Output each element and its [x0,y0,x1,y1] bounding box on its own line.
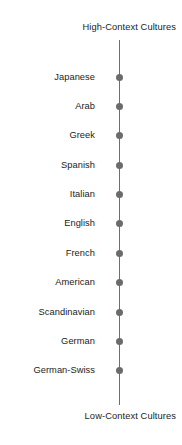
data-point-dot [116,74,123,81]
scale-row: Scandinavian [0,305,182,319]
scale-row: Italian [0,187,182,201]
scale-row: German-Swiss [0,363,182,377]
scale-row: French [0,246,182,260]
data-point-dot [116,132,123,139]
data-point-dot [116,220,123,227]
culture-label: Greek [0,129,95,141]
data-point-dot [116,191,123,198]
scale-row: Spanish [0,158,182,172]
data-point-dot [116,279,123,286]
culture-label: Spanish [0,159,95,171]
culture-label: Arab [0,100,95,112]
culture-label: German [0,335,95,347]
scale-row: Arab [0,99,182,113]
data-point-dot [116,338,123,345]
culture-label: English [0,217,95,229]
data-point-dot [116,250,123,257]
scale-row: American [0,275,182,289]
low-context-pole-label: Low-Context Cultures [0,411,176,422]
scale-row: Greek [0,128,182,142]
culture-label: Japanese [0,71,95,83]
scale-row: German [0,334,182,348]
culture-label: Scandinavian [0,306,95,318]
data-point-dot [116,162,123,169]
culture-label: German-Swiss [0,364,95,376]
culture-label: French [0,247,95,259]
data-point-dot [116,309,123,316]
data-point-dot [116,367,123,374]
context-cultures-scale-figure: High-Context Cultures JapaneseArabGreekS… [0,0,182,445]
scale-row: Japanese [0,70,182,84]
data-point-dot [116,103,123,110]
scale-row-list: JapaneseArabGreekSpanishItalianEnglishFr… [0,0,182,445]
scale-row: English [0,216,182,230]
culture-label: Italian [0,188,95,200]
culture-label: American [0,276,95,288]
